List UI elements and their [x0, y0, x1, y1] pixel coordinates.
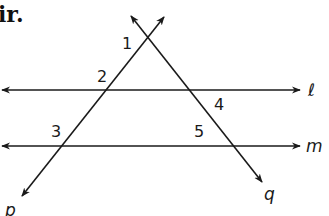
line-q: q — [131, 16, 275, 204]
angle-3-label: 3 — [51, 122, 61, 141]
line-l-label: ℓ — [307, 80, 315, 100]
line-m-label: m — [306, 136, 323, 156]
header-fragment-text: ir. — [0, 1, 24, 27]
angle-2-label: 2 — [97, 67, 107, 86]
line-p: p — [4, 17, 164, 216]
line-l: ℓ — [2, 80, 315, 100]
parallel-lines-diagram: ir. ℓ m p q 1 2 3 4 5 — [0, 0, 329, 216]
line-q-stroke — [131, 16, 262, 182]
line-q-label: q — [264, 184, 275, 204]
line-p-stroke — [22, 17, 164, 196]
line-p-label: p — [4, 200, 16, 216]
angle-1-label: 1 — [122, 34, 132, 53]
angle-4-label: 4 — [214, 95, 224, 114]
angle-5-label: 5 — [194, 122, 204, 141]
